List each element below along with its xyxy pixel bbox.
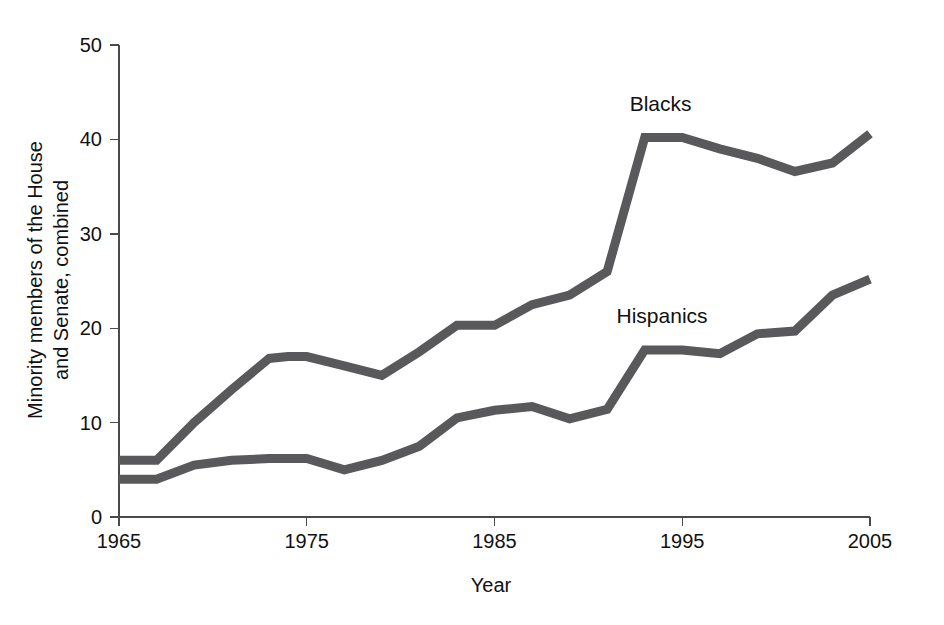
- x-axis-title: Year: [471, 574, 512, 596]
- y-axis-title-line-1: Minority members of the House: [24, 141, 46, 419]
- y-tick-label: 30: [80, 223, 102, 245]
- y-axis-title-line-2: and Senate, combined: [50, 180, 72, 380]
- x-tick-label: 1985: [472, 530, 517, 552]
- y-tick-label: 40: [80, 128, 102, 150]
- y-tick-label: 0: [91, 506, 102, 528]
- series-label-blacks: Blacks: [630, 92, 692, 115]
- chart-container: 01020304050 19651975198519952005 BlacksH…: [0, 0, 944, 625]
- y-tick-label: 20: [80, 317, 102, 339]
- y-tick-label: 50: [80, 34, 102, 56]
- series-label-hispanics: Hispanics: [617, 304, 708, 327]
- x-tick-label: 1995: [660, 530, 705, 552]
- y-tick-label: 10: [80, 412, 102, 434]
- line-chart: 01020304050 19651975198519952005 BlacksH…: [0, 0, 944, 625]
- x-tick-label: 1975: [285, 530, 330, 552]
- x-tick-label: 2005: [848, 530, 893, 552]
- x-tick-label: 1965: [97, 530, 142, 552]
